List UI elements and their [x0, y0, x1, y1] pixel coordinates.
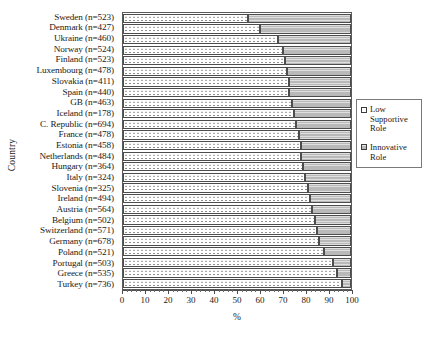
category-label: Portugal (n=503) — [0, 258, 118, 269]
bar-row — [123, 66, 351, 77]
x-axis-minor-tick — [338, 290, 339, 292]
bar-segment-low-supportive — [123, 236, 319, 245]
bar-segment-low-supportive — [123, 35, 278, 44]
bar-segment-innovative — [248, 14, 351, 23]
bar-segment-low-supportive — [123, 162, 303, 171]
x-axis-title: % — [122, 312, 352, 322]
bar-segment-low-supportive — [123, 88, 289, 97]
x-axis-minor-tick — [140, 290, 141, 292]
x-axis-minor-tick — [288, 290, 289, 292]
x-axis: 0102030405060708090100 — [122, 290, 352, 291]
x-axis-tick — [145, 290, 146, 294]
bar-segment-low-supportive — [123, 77, 289, 86]
bar-segment-innovative — [289, 88, 351, 97]
category-label: Turkey (n=736) — [0, 279, 118, 290]
x-axis-minor-tick — [251, 290, 252, 292]
bar-segment-low-supportive — [123, 205, 312, 214]
legend-label: Low Supportive Role — [370, 105, 418, 134]
bar-segment-innovative — [260, 24, 351, 33]
x-axis-minor-tick — [301, 290, 302, 292]
bar-row — [123, 130, 351, 141]
bar-row — [123, 204, 351, 215]
bar-row — [123, 183, 351, 194]
x-axis-minor-tick — [246, 290, 247, 292]
x-axis-minor-tick — [347, 290, 348, 292]
bar-segment-low-supportive — [123, 173, 305, 182]
category-label: Finland (n=523) — [0, 55, 118, 66]
bar-row — [123, 268, 351, 279]
legend-entry: Innovative Role — [361, 143, 418, 162]
bar-segment-low-supportive — [123, 268, 337, 277]
chart-legend: Low Supportive RoleInnovative Role — [356, 99, 422, 168]
x-axis-tick — [283, 290, 284, 294]
category-label: Belgium (n=502) — [0, 215, 118, 226]
category-label: Switzerland (n=571) — [0, 226, 118, 237]
x-axis-minor-tick — [292, 290, 293, 292]
innovative-swatch — [361, 144, 367, 150]
bar-segment-innovative — [337, 268, 351, 277]
bar-segment-innovative — [324, 247, 351, 256]
x-axis-minor-tick — [297, 290, 298, 292]
bar-row — [123, 162, 351, 173]
bar-segment-low-supportive — [123, 46, 283, 55]
bar-segment-innovative — [301, 152, 351, 161]
x-axis-tick-label: 10 — [141, 295, 150, 305]
x-axis-tick-label: 50 — [233, 295, 242, 305]
category-label: Ukraine (n=460) — [0, 33, 118, 44]
x-axis-minor-tick — [131, 290, 132, 292]
bar-segment-low-supportive — [123, 183, 308, 192]
x-axis-minor-tick — [150, 290, 151, 292]
bar-segment-innovative — [301, 141, 351, 150]
x-axis-tick — [306, 290, 307, 294]
plot-area — [122, 12, 352, 290]
x-axis-minor-tick — [163, 290, 164, 292]
bar-row — [123, 87, 351, 98]
x-axis-minor-tick — [186, 290, 187, 292]
x-axis-minor-tick — [159, 290, 160, 292]
legend-entry: Low Supportive Role — [361, 105, 418, 134]
bar-segment-innovative — [310, 194, 351, 203]
x-axis-minor-tick — [278, 290, 279, 292]
x-axis-minor-tick — [154, 290, 155, 292]
category-label: Greece (n=535) — [0, 269, 118, 280]
category-label: Ireland (n=494) — [0, 194, 118, 205]
x-axis-minor-tick — [315, 290, 316, 292]
category-label: C. Republic (n=694) — [0, 119, 118, 130]
x-axis-tick-label: 90 — [325, 295, 334, 305]
bar-row — [123, 119, 351, 130]
category-label: GB (n=463) — [0, 98, 118, 109]
x-axis-tick — [329, 290, 330, 294]
bar-segment-low-supportive — [123, 99, 292, 108]
category-label: Slovenia (n=325) — [0, 183, 118, 194]
x-axis-minor-tick — [232, 290, 233, 292]
bar-row — [123, 77, 351, 88]
bar-row — [123, 278, 351, 289]
bar-segment-innovative — [312, 205, 351, 214]
bar-segment-innovative — [308, 183, 351, 192]
category-label: Germany (n=678) — [0, 236, 118, 247]
category-label: Denmark (n=427) — [0, 23, 118, 34]
x-axis-tick-label: 100 — [345, 295, 359, 305]
x-axis-minor-tick — [136, 290, 137, 292]
bar-segment-innovative — [289, 77, 351, 86]
bar-row — [123, 215, 351, 226]
category-label: Luxembourg (n=478) — [0, 65, 118, 76]
bar-segment-innovative — [292, 99, 351, 108]
x-axis-tick-label: 80 — [302, 295, 311, 305]
bar-segment-low-supportive — [123, 67, 287, 76]
x-axis-minor-tick — [127, 290, 128, 292]
x-axis-tick — [260, 290, 261, 294]
x-axis-minor-tick — [219, 290, 220, 292]
x-axis-minor-tick — [311, 290, 312, 292]
bar-segment-innovative — [287, 67, 351, 76]
x-axis-tick — [122, 290, 123, 294]
bar-segment-innovative — [317, 226, 351, 235]
bar-segment-low-supportive — [123, 258, 333, 267]
category-label: Estonia (n=458) — [0, 140, 118, 151]
category-label: France (n=478) — [0, 130, 118, 141]
x-axis-tick — [191, 290, 192, 294]
x-axis-tick-label: 0 — [120, 295, 125, 305]
x-axis-tick — [168, 290, 169, 294]
bar-segment-innovative — [303, 162, 351, 171]
bar-row — [123, 172, 351, 183]
